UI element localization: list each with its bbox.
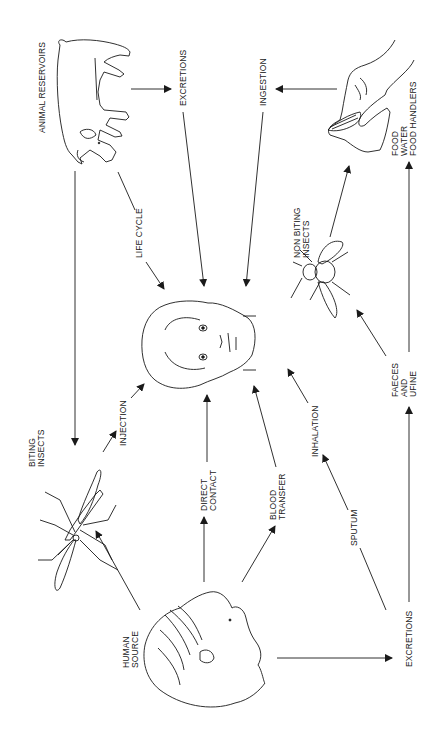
label-ingestion: INGESTION: [259, 58, 268, 106]
arrow-human-to-blood-transfer: [242, 526, 275, 582]
arrow-blood-transfer-to-host: [254, 386, 276, 467]
human-head-profile-icon: [144, 592, 265, 707]
arrow-inhalation-to-host: [288, 369, 308, 403]
arrow-fly-to-food: [330, 166, 349, 237]
label-sputum: SPUTUM: [350, 510, 359, 547]
label-animal-reservoirs: ANIMAL RESERVOIRS: [38, 42, 47, 133]
mosquito-icon: [38, 470, 118, 590]
label-non-biting-insects: NON BITING INSECTS: [293, 207, 311, 258]
label-faeces-and-urine: FAECES AND UFINE: [391, 363, 418, 397]
arrow-lifecycle-to-host: [146, 262, 164, 289]
arrow-faeces-to-non-biting-insects: [357, 310, 386, 356]
arrow-ingestion-to-host: [246, 112, 263, 286]
label-biting-insects: BITING INSECTS: [28, 429, 46, 467]
line-excretions-to-sputum: [360, 548, 386, 610]
label-human-source: HUMAN SOURCE: [122, 631, 140, 668]
label-excretions-top: EXCRETIONS: [179, 50, 188, 106]
arrow-human-to-biting-insects: [96, 531, 140, 610]
label-life-cycle: LIFE CYCLE: [135, 208, 144, 258]
label-blood-transfer: BLOOD TRANSFER: [269, 473, 287, 520]
label-excretions-bottom: EXCRETIONS: [405, 611, 414, 667]
pig-icon: [57, 40, 130, 164]
label-inhalation: INHALATION: [311, 406, 320, 457]
label-direct-contact: DIRECT CONTACT: [200, 470, 218, 511]
arrow-excretions-to-host: [183, 112, 204, 286]
label-food-water-handlers: FOOD WATER FOOD HANDLERS: [391, 81, 418, 156]
arrow-injection-to-host: [131, 384, 144, 398]
human-face-icon: [142, 301, 256, 388]
arrow-insect-to-injection: [103, 431, 116, 452]
connector-layer: [0, 0, 442, 737]
label-injection: INJECTION: [119, 400, 128, 446]
arrow-sputum-to-inhalation: [323, 455, 348, 510]
transmission-diagram: ANIMAL RESERVOIRS EXCRETIONS INGESTION F…: [0, 0, 442, 737]
line-animal-to-lifecycle: [118, 172, 135, 210]
